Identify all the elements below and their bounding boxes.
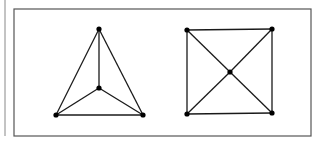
- edge-center-bottom-right: [230, 72, 272, 113]
- node-top-right: [269, 26, 274, 31]
- edge-bottom-right-bottom-left: [187, 113, 272, 114]
- edge-top-right-center: [230, 29, 272, 72]
- node-bottom-right: [140, 112, 145, 117]
- diagram-frame: [14, 9, 311, 136]
- edge-center-bottom-left: [187, 72, 230, 114]
- right-graph: [184, 26, 274, 116]
- graph-diagram: [0, 0, 326, 142]
- node-bottom-right: [269, 110, 274, 115]
- edge-top-left-top-right: [187, 29, 272, 30]
- node-bottom-left: [53, 112, 58, 117]
- node-center: [227, 69, 232, 74]
- edge-top-left-center: [187, 30, 230, 72]
- node-bottom-left: [184, 111, 189, 116]
- node-top-left: [184, 27, 189, 32]
- left-graph: [53, 26, 145, 117]
- node-center: [96, 85, 101, 90]
- node-top: [96, 26, 101, 31]
